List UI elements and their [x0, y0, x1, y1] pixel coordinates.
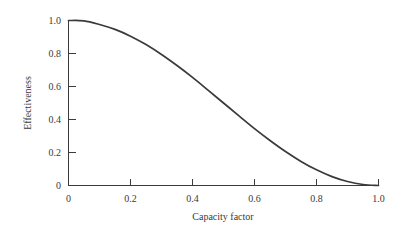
x-tick-label: 0.2: [124, 193, 137, 204]
chart-canvas: 1.0 0.8 0.6 0.4 0.2 0 0 0.2 0.4 0.6 0.8 …: [0, 0, 411, 236]
y-tick-label: 0: [56, 180, 61, 191]
chart-background: [0, 0, 411, 236]
x-tick-label: 0: [66, 193, 71, 204]
x-tick-label: 1.0: [372, 193, 385, 204]
y-tick-label: 1.0: [49, 15, 62, 26]
y-tick-label: 0.8: [49, 48, 62, 59]
x-tick-label: 0.4: [186, 193, 199, 204]
y-axis-title: Effectiveness: [22, 76, 33, 130]
y-tick-label: 0.4: [49, 114, 62, 125]
x-tick-label: 0.8: [310, 193, 323, 204]
y-tick-label: 0.2: [49, 147, 62, 158]
y-tick-label: 0.6: [49, 81, 62, 92]
x-axis-title: Capacity factor: [192, 211, 254, 222]
x-tick-label: 0.6: [248, 193, 261, 204]
chart-figure: 1.0 0.8 0.6 0.4 0.2 0 0 0.2 0.4 0.6 0.8 …: [0, 0, 411, 236]
